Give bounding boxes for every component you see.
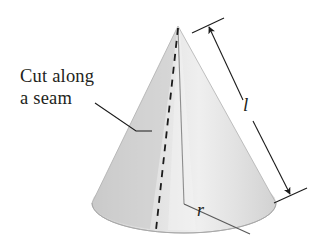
radius-label: r	[197, 200, 204, 221]
slant-dimension-upper	[209, 27, 243, 100]
slant-tick-top	[192, 18, 224, 33]
cut-note-line-2: a seam	[20, 88, 94, 110]
cone-figure: Cut along a seam l r	[0, 0, 314, 251]
slant-tick-bottom	[274, 188, 307, 203]
cut-along-seam-caption: Cut along a seam	[20, 66, 94, 110]
cone-drawing	[0, 0, 314, 251]
slant-height-label: l	[243, 94, 248, 116]
cut-note-line-1: Cut along	[20, 66, 94, 88]
